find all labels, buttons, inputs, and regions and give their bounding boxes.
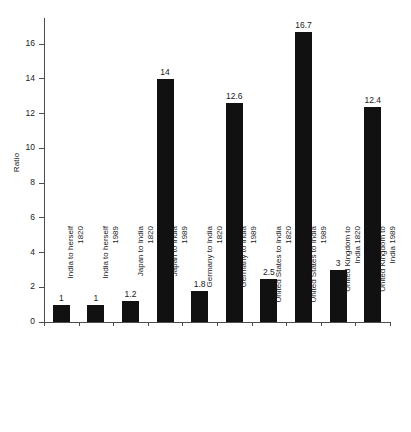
y-tick-label: 12 — [0, 108, 35, 118]
x-axis-label: Japan to India1820 — [136, 226, 148, 330]
bar-value-label: 16.7 — [284, 20, 324, 30]
x-tick — [44, 322, 45, 326]
y-tick-label: 4 — [0, 247, 35, 257]
x-axis-label: Germany to India1820 — [205, 226, 217, 330]
x-axis-label: United States to India1989 — [309, 226, 321, 330]
x-axis-label: United States to India1820 — [274, 226, 286, 330]
y-tick-mark — [39, 78, 44, 79]
y-tick-label: 16 — [0, 38, 35, 48]
x-axis-label: United Kingdom toIndia 1820 — [343, 226, 355, 330]
y-tick-mark — [39, 252, 44, 253]
y-tick-mark — [39, 287, 44, 288]
y-tick-label: 2 — [0, 281, 35, 291]
bar-value-label: 14 — [145, 67, 185, 77]
y-tick-mark — [39, 113, 44, 114]
x-axis-label: Japan to India1989 — [170, 226, 182, 330]
y-tick-label: 14 — [0, 73, 35, 83]
x-axis-label: United Kingdom toIndia 1989 — [378, 226, 390, 330]
bar-value-label: 12.6 — [214, 91, 254, 101]
y-tick-mark — [39, 148, 44, 149]
y-tick-label: 6 — [0, 212, 35, 222]
x-axis-label: India to herself1820 — [66, 226, 78, 330]
y-tick-mark — [39, 217, 44, 218]
bar-chart: Ratio 0246810121416 111.2141.812.62.516.… — [0, 0, 411, 432]
y-tick-label: 0 — [0, 316, 35, 326]
y-axis-line — [44, 18, 45, 323]
y-tick-mark — [39, 183, 44, 184]
bar-value-label: 12.4 — [353, 95, 393, 105]
x-axis-label: Germany to India1989 — [239, 226, 251, 330]
y-tick-label: 10 — [0, 142, 35, 152]
x-axis-label: India to herself1989 — [101, 226, 113, 330]
y-tick-label: 8 — [0, 177, 35, 187]
y-tick-mark — [39, 44, 44, 45]
